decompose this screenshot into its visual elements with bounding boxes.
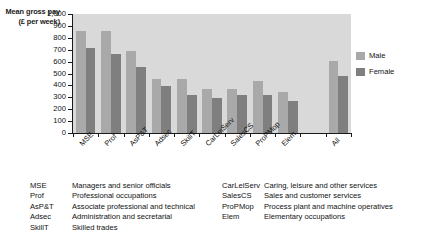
- bar-female-prof: [111, 54, 121, 133]
- y-axis-tick-label: 400: [36, 81, 66, 89]
- y-axis-tick-label: 1,000: [36, 10, 66, 18]
- key-abbreviation: AsP&T: [30, 202, 72, 212]
- y-axis-tick-label: 0: [36, 129, 66, 137]
- y-axis-tick-mark: [68, 121, 72, 122]
- key-abbreviation: Elem: [222, 212, 264, 222]
- key-abbreviation: SkillT: [30, 223, 72, 233]
- y-axis-tick-label: 500: [36, 70, 66, 78]
- abbreviation-key: MSEManagers and senior officialsProfProf…: [30, 181, 425, 233]
- x-axis-tick-mark: [225, 134, 226, 137]
- key-row: CarLeiServCaring, leisure and other serv…: [222, 181, 422, 191]
- y-axis-tick-label: 200: [36, 105, 66, 113]
- y-axis-tick-label: 900: [36, 22, 66, 30]
- y-axis-tick-label: 300: [36, 93, 66, 101]
- key-description: Skilled trades: [72, 223, 118, 233]
- y-axis-tick-mark: [68, 74, 72, 75]
- key-description: Administration and secretarial: [72, 212, 172, 222]
- x-axis-tick-mark: [250, 134, 251, 137]
- legend-label: Male: [369, 52, 385, 60]
- key-row: ElemElementary occupations: [222, 212, 422, 222]
- y-axis-tick-label: 700: [36, 46, 66, 54]
- key-column-right: CarLeiServCaring, leisure and other serv…: [222, 181, 422, 233]
- bar-male-aspt: [126, 51, 136, 133]
- bar-female-elem: [288, 101, 298, 133]
- key-description: Professional occupations: [72, 191, 156, 201]
- key-row: MSEManagers and senior officials: [30, 181, 222, 191]
- legend-item[interactable]: Male: [356, 52, 394, 60]
- key-abbreviation: MSE: [30, 181, 72, 191]
- key-row: AsP&TAssociate professional and technica…: [30, 202, 222, 212]
- key-description: Process plant and machine operatives: [264, 202, 393, 212]
- key-row: SkillTSkilled trades: [30, 223, 222, 233]
- bar-female-aspt: [136, 67, 146, 133]
- x-axis-tick-mark: [275, 134, 276, 137]
- key-abbreviation: Prof: [30, 191, 72, 201]
- bar-male-skillt: [177, 79, 187, 133]
- y-axis-tick-mark: [68, 50, 72, 51]
- key-abbreviation: CarLeiServ: [222, 181, 264, 191]
- bar-male-mse: [76, 31, 86, 133]
- legend-swatch-icon: [356, 68, 365, 76]
- key-row: SalesCSSales and customer services: [222, 191, 422, 201]
- key-description: Managers and senior officials: [72, 181, 171, 191]
- y-axis-tick-label: 800: [36, 34, 66, 42]
- bar-male-carleiserv: [202, 89, 212, 133]
- legend-label: Female: [369, 68, 394, 76]
- key-row: AdsecAdministration and secretarial: [30, 212, 222, 222]
- key-description: Sales and customer services: [264, 191, 361, 201]
- y-axis-line: [72, 14, 73, 134]
- y-axis-tick-label: 600: [36, 58, 66, 66]
- y-axis-tick-mark: [68, 14, 72, 15]
- legend-item[interactable]: Female: [356, 68, 394, 76]
- x-axis-tick-mark: [300, 134, 301, 137]
- key-description: Caring, leisure and other services: [264, 181, 377, 191]
- x-axis-tick-mark: [124, 134, 125, 137]
- y-axis-tick-mark: [68, 97, 72, 98]
- key-description: Elementary occupations: [264, 212, 345, 222]
- x-axis-tick-mark: [326, 134, 327, 137]
- bar-male-all: [329, 61, 339, 133]
- legend-swatch-icon: [356, 52, 365, 60]
- key-row: ProfProfessional occupations: [30, 191, 222, 201]
- plot-area: [73, 14, 351, 133]
- key-column-left: MSEManagers and senior officialsProfProf…: [30, 181, 222, 233]
- y-axis-tick-mark: [68, 26, 72, 27]
- y-axis-tick-mark: [68, 85, 72, 86]
- y-axis-tick-mark: [68, 38, 72, 39]
- y-axis-tick-mark: [68, 133, 72, 134]
- x-axis-tick-mark: [199, 134, 200, 137]
- y-axis-tick-mark: [68, 109, 72, 110]
- key-description: Associate professional and technical: [72, 202, 195, 212]
- key-abbreviation: ProPMop: [222, 202, 264, 212]
- x-axis-tick-mark: [174, 134, 175, 137]
- key-abbreviation: Adsec: [30, 212, 72, 222]
- bar-female-all: [338, 76, 348, 133]
- x-axis-label-all: All: [330, 136, 341, 147]
- bar-female-mse: [86, 48, 96, 133]
- y-axis-tick-label: 100: [36, 117, 66, 125]
- x-axis-label-prof: Prof: [103, 133, 118, 148]
- bar-chart: Mean gross pay (£ per week) 1,0009008007…: [0, 0, 425, 242]
- bar-female-skillt: [187, 95, 197, 133]
- x-axis-tick-mark: [98, 134, 99, 137]
- key-row: ProPMopProcess plant and machine operati…: [222, 202, 422, 212]
- bar-male-adsec: [152, 79, 162, 133]
- y-axis-tick-mark: [68, 62, 72, 63]
- x-axis-tick-mark: [351, 134, 352, 137]
- x-axis-tick-mark: [149, 134, 150, 137]
- bar-male-prof: [101, 31, 111, 133]
- x-axis-tick-mark: [73, 134, 74, 137]
- key-abbreviation: SalesCS: [222, 191, 264, 201]
- bars-layer: [73, 14, 351, 133]
- chart-legend: MaleFemale: [356, 52, 394, 84]
